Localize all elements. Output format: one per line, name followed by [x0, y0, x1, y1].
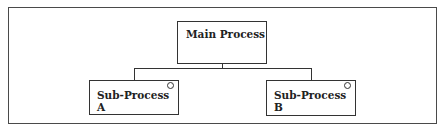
sub-process-b-label-line1: Sub-Process — [274, 89, 346, 101]
main-process-node: Main Process — [177, 21, 267, 64]
sub-process-b-label-line2: B — [274, 101, 283, 113]
main-process-label: Main Process — [186, 28, 265, 40]
circle-marker-icon — [167, 82, 174, 89]
sub-process-a-label-line1: Sub-Process — [97, 89, 169, 101]
sub-process-a-node: Sub-Process A — [89, 80, 179, 115]
sub-process-b-node: Sub-Process B — [266, 80, 356, 116]
sub-process-a-label-line2: A — [97, 101, 105, 113]
connector-to-sub-b — [311, 68, 312, 80]
connector-to-sub-a — [134, 68, 135, 80]
connector-horizontal — [134, 68, 312, 69]
circle-marker-icon — [344, 82, 351, 89]
